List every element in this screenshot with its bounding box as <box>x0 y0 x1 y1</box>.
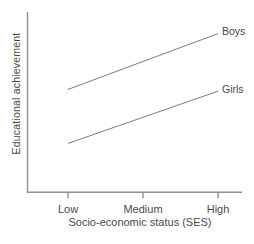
ses-achievement-figure: Educational achievement Boys Girls Low M… <box>0 0 254 244</box>
series-line-girls <box>68 91 218 143</box>
series-label-girls: Girls <box>222 83 244 95</box>
y-axis-label: Educational achievement <box>10 4 23 184</box>
x-tick-label-low: Low <box>38 203 98 215</box>
x-axis-title: Socio-economic status (SES) <box>33 216 247 228</box>
x-tick-label-medium: Medium <box>113 203 173 215</box>
x-tick-label-high: High <box>188 203 248 215</box>
series-line-boys <box>68 34 218 90</box>
series-label-boys: Boys <box>222 25 245 37</box>
